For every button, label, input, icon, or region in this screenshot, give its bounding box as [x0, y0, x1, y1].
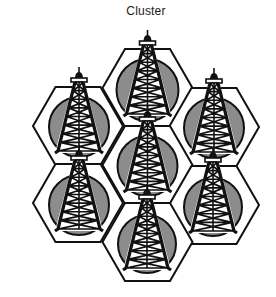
cluster-diagram [0, 0, 276, 297]
